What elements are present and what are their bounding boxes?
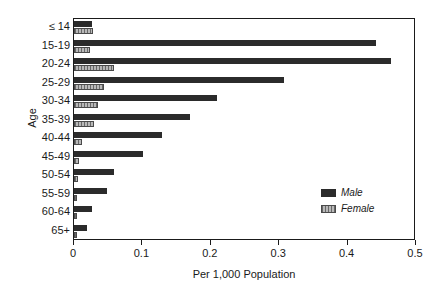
bar-male bbox=[74, 169, 114, 175]
bar-male bbox=[74, 58, 391, 64]
bar-group bbox=[74, 56, 414, 75]
bar-female bbox=[74, 232, 77, 238]
y-tick-label: 45-49 bbox=[42, 151, 70, 162]
bar-group bbox=[74, 112, 414, 131]
x-tick-mark bbox=[141, 240, 142, 245]
bar-female bbox=[74, 195, 77, 201]
bar-male bbox=[74, 21, 92, 27]
bar-female bbox=[74, 176, 78, 182]
y-tick-label: 40-44 bbox=[42, 132, 70, 143]
bar-male bbox=[74, 151, 143, 157]
y-tick-label: 55-59 bbox=[42, 188, 70, 199]
bar-group bbox=[74, 19, 414, 38]
bar-male bbox=[74, 114, 190, 120]
bar-group bbox=[74, 167, 414, 186]
bar-female bbox=[74, 47, 90, 53]
y-tick-label: 20-24 bbox=[42, 58, 70, 69]
bar-chart: Age ≤ 1415-1920-2425-2930-3435-3940-4445… bbox=[0, 0, 438, 290]
x-tick-label: 0.5 bbox=[395, 247, 435, 259]
bar-female bbox=[74, 139, 82, 145]
bar-male bbox=[74, 188, 107, 194]
bar-female bbox=[74, 28, 93, 34]
bar-group bbox=[74, 223, 414, 242]
bar-group bbox=[74, 93, 414, 112]
bar-male bbox=[74, 225, 87, 231]
x-tick-mark bbox=[347, 240, 348, 245]
male-swatch-icon bbox=[321, 189, 336, 197]
bar-group bbox=[74, 75, 414, 94]
bar-group bbox=[74, 130, 414, 149]
x-tick-label: 0.1 bbox=[121, 247, 161, 259]
x-tick-mark bbox=[278, 240, 279, 245]
bar-female bbox=[74, 121, 94, 127]
y-tick-label: 60-64 bbox=[42, 206, 70, 217]
bar-female bbox=[74, 84, 104, 90]
chart-legend: Male Female bbox=[321, 186, 374, 218]
bar-male bbox=[74, 40, 376, 46]
y-tick-label: 15-19 bbox=[42, 40, 70, 51]
y-tick-label: 65+ bbox=[51, 225, 70, 236]
bar-group bbox=[74, 149, 414, 168]
bar-female bbox=[74, 102, 98, 108]
legend-label-female: Female bbox=[341, 203, 374, 214]
legend-item-male: Male bbox=[321, 186, 374, 199]
bar-female bbox=[74, 158, 79, 164]
x-tick-mark bbox=[415, 240, 416, 245]
female-swatch-icon bbox=[321, 205, 336, 213]
x-tick-label: 0.4 bbox=[327, 247, 367, 259]
bar-group bbox=[74, 38, 414, 57]
x-tick-mark bbox=[73, 240, 74, 245]
y-tick-label: 30-34 bbox=[42, 95, 70, 106]
y-tick-label: 25-29 bbox=[42, 77, 70, 88]
x-tick-label: 0 bbox=[53, 247, 93, 259]
y-axis-title: Age bbox=[26, 88, 38, 148]
y-tick-label: 35-39 bbox=[42, 114, 70, 125]
bar-female bbox=[74, 65, 114, 71]
legend-item-female: Female bbox=[321, 202, 374, 215]
legend-label-male: Male bbox=[341, 187, 363, 198]
y-tick-label: 50-54 bbox=[42, 169, 70, 180]
bar-male bbox=[74, 132, 162, 138]
y-tick-label: ≤ 14 bbox=[49, 21, 70, 32]
bar-male bbox=[74, 206, 92, 212]
x-tick-label: 0.3 bbox=[258, 247, 298, 259]
x-tick-label: 0.2 bbox=[190, 247, 230, 259]
bar-female bbox=[74, 213, 77, 219]
bar-male bbox=[74, 95, 217, 101]
bar-male bbox=[74, 77, 284, 83]
x-axis-title: Per 1,000 Population bbox=[73, 268, 415, 280]
x-tick-mark bbox=[210, 240, 211, 245]
